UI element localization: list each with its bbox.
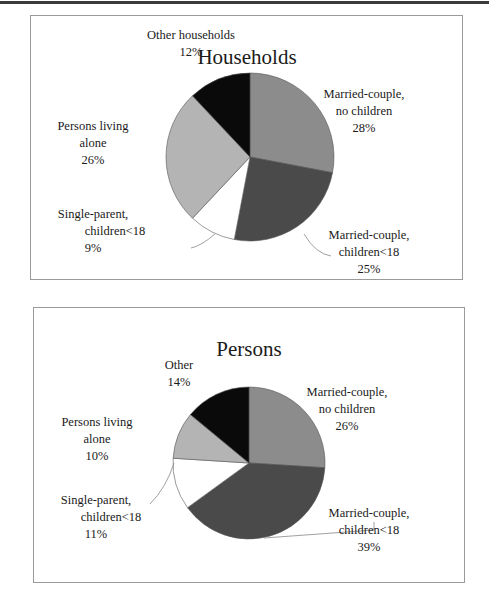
households-chart-panel: Households Married-couple,no children28%… [30,15,463,280]
slice-label: Persons livingalone26% [57,119,129,167]
slice-label: Married-couple,children<1825% [329,228,410,276]
pie-slice-married-couple-no-children [249,387,325,468]
slice-label: Married-couple,children<1839% [329,506,410,554]
slice-label: Single-parent,children<1811% [61,493,141,541]
households-pie-svg: Households Married-couple,no children28%… [31,16,464,281]
households-pie [166,73,334,241]
leader-line [304,234,331,256]
chart-title: Households [197,45,296,69]
leader-line [191,234,215,248]
top-rule [0,1,489,4]
chart-title: Persons [216,337,281,361]
slice-label: Married-couple,no children26% [307,385,388,433]
persons-chart-panel: Persons Married-couple,no children26%Mar… [33,307,465,583]
slice-label: Married-couple,no children28% [324,87,405,135]
pie-slice-married-couple-no-children [250,73,334,173]
slice-label: Single-parent,children<189% [58,207,145,255]
leader-line [150,463,174,504]
persons-pie-svg: Persons Married-couple,no children26%Mar… [34,308,466,584]
slice-label: Persons livingalone10% [61,415,133,463]
persons-pie [173,387,325,539]
slice-label: Other14% [165,358,194,389]
